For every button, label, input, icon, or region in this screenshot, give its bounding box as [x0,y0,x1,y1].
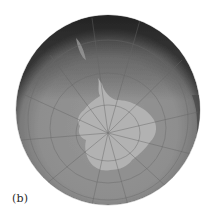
panel-label: (b) [12,192,28,205]
globe-figure: (b) [0,0,213,223]
globe-image [0,0,213,223]
globe-body [16,15,201,205]
